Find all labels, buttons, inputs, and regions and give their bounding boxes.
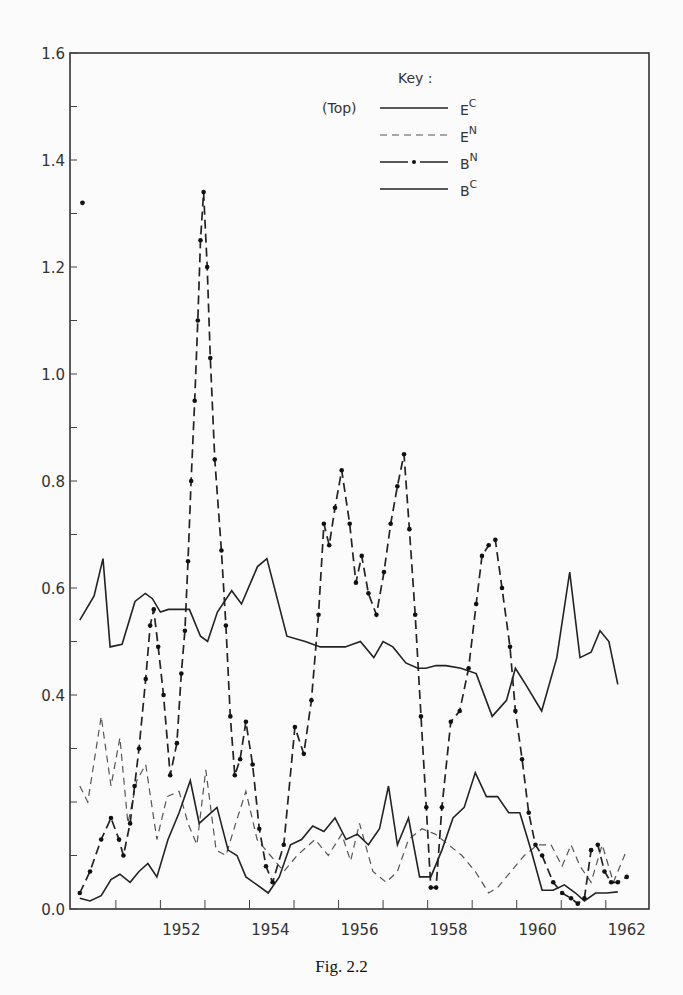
- x-tick-label: 1960: [519, 921, 557, 939]
- data-point-dot: [219, 548, 224, 553]
- data-point-dot: [183, 629, 188, 634]
- data-point-dot: [175, 741, 180, 746]
- data-point-dot: [156, 645, 161, 650]
- data-point-dot: [333, 505, 338, 510]
- line-chart: 0.00.40.60.81.01.21.41.61952195419561958…: [0, 0, 683, 995]
- y-tick-label: 1.6: [41, 45, 65, 63]
- data-point-dot: [148, 623, 153, 628]
- legend-label-sup: C: [470, 178, 478, 191]
- data-point-dot: [513, 709, 518, 714]
- legend-label: EN: [460, 124, 477, 145]
- series-e-c: [80, 559, 618, 717]
- data-point-dot: [208, 356, 213, 361]
- data-point-dot: [128, 821, 133, 826]
- data-point-dot: [205, 265, 210, 270]
- legend-label-sup: C: [469, 97, 477, 110]
- series-e-n: [80, 716, 627, 893]
- data-point-dot: [212, 457, 217, 462]
- data-point-dot: [250, 762, 255, 767]
- data-point-dot: [179, 671, 184, 676]
- data-point-dot: [99, 837, 104, 842]
- data-point-dot: [508, 645, 513, 650]
- data-point-dot: [309, 698, 314, 703]
- data-point-dot: [560, 891, 565, 896]
- data-point-dot: [407, 527, 412, 532]
- data-point-dot: [77, 891, 82, 896]
- data-point-dot: [413, 612, 418, 617]
- data-point-dot: [339, 468, 344, 473]
- y-tick-label: 0.4: [41, 687, 65, 705]
- data-point-dot: [347, 522, 352, 527]
- legend-label-sup: N: [469, 124, 477, 137]
- x-tick-label: 1962: [608, 921, 646, 939]
- data-point-dot: [616, 880, 621, 885]
- y-tick-label: 1.0: [41, 366, 65, 384]
- data-point-dot: [228, 714, 233, 719]
- figure-caption: Fig. 2.2: [0, 957, 683, 977]
- series-layer: [77, 190, 629, 906]
- data-point-dot: [466, 666, 471, 671]
- data-point-dot: [480, 554, 485, 559]
- data-point-dot: [486, 543, 491, 548]
- y-tick-label: 1.2: [41, 259, 65, 277]
- data-point-dot: [244, 719, 249, 724]
- y-tick-label: 0.8: [41, 473, 65, 491]
- data-point-dot: [264, 864, 269, 869]
- data-point-dot: [624, 875, 629, 880]
- x-tick-label: 1956: [340, 921, 378, 939]
- data-point-dot: [327, 543, 332, 548]
- data-point-dot: [440, 805, 445, 810]
- data-point-dot: [109, 816, 114, 821]
- data-point-dot: [366, 591, 371, 596]
- legend-label: EC: [460, 97, 477, 118]
- y-tick-label: 1.4: [41, 152, 65, 170]
- data-point-dot: [551, 880, 556, 885]
- series-b-n: [80, 192, 627, 904]
- data-point-dot: [224, 623, 229, 628]
- data-point-dot: [186, 559, 191, 564]
- data-point-dot: [595, 843, 600, 848]
- data-point-dot: [424, 805, 429, 810]
- data-point-dot: [189, 479, 194, 484]
- data-point-dot: [474, 602, 479, 607]
- data-point-dot: [232, 773, 237, 778]
- data-point-dot: [359, 554, 364, 559]
- legend-swatch-dot: [412, 160, 416, 164]
- data-point-dot: [192, 398, 197, 403]
- data-point-dot: [354, 580, 359, 585]
- data-point-dot: [540, 853, 545, 858]
- data-point-dot: [293, 725, 298, 730]
- data-point-dot: [520, 757, 525, 762]
- y-tick-label: 0.0: [41, 901, 65, 919]
- data-point-dot: [302, 752, 307, 757]
- data-point-dot: [196, 318, 201, 323]
- data-point-dot: [526, 810, 531, 815]
- data-point-dot: [281, 843, 286, 848]
- data-point-dot: [374, 612, 379, 617]
- data-point-dot: [533, 843, 538, 848]
- data-point-dot: [589, 848, 594, 853]
- plot-frame: [70, 53, 649, 909]
- legend-label: BN: [460, 151, 478, 172]
- legend-label: BC: [460, 178, 478, 199]
- data-point-dot: [238, 757, 243, 762]
- data-point-dot: [602, 869, 607, 874]
- data-point-dot: [388, 522, 393, 527]
- legend-label-sup: N: [470, 151, 478, 164]
- data-point-dot: [575, 901, 580, 906]
- data-point-dot: [382, 570, 387, 575]
- data-point-dot: [161, 693, 166, 698]
- data-point-dot: [137, 746, 142, 751]
- data-point-dot: [449, 719, 454, 724]
- legend-title: Key :: [398, 70, 433, 86]
- isolated-point-dot: [80, 200, 85, 205]
- data-point-dot: [457, 709, 462, 714]
- data-point-dot: [316, 612, 321, 617]
- data-point-dot: [257, 826, 262, 831]
- data-point-dot: [402, 452, 407, 457]
- data-point-dot: [132, 784, 137, 789]
- x-tick-label: 1954: [251, 921, 289, 939]
- data-point-dot: [428, 885, 433, 890]
- x-tick-label: 1952: [162, 921, 200, 939]
- series-b-c: [80, 773, 618, 901]
